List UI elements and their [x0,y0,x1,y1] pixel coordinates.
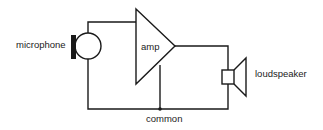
microphone-body [75,33,101,59]
wire-speaker-to-common [160,84,228,109]
circuit-diagram: microphone amp loudspeaker common [0,0,323,130]
common-junction-dot [158,107,162,111]
loudspeaker-label: loudspeaker [255,68,307,79]
common-label: common [146,113,182,124]
amplifier-label: amp [141,41,159,52]
wire-mic-to-amp [88,22,136,33]
microphone-symbol [71,33,101,59]
loudspeaker-cone [234,58,246,96]
wire-mic-to-common [88,59,160,109]
microphone-label: microphone [16,39,66,50]
loudspeaker-symbol [222,58,246,96]
wires [88,22,228,109]
loudspeaker-magnet [222,70,234,84]
wire-amp-to-speaker [175,46,228,70]
